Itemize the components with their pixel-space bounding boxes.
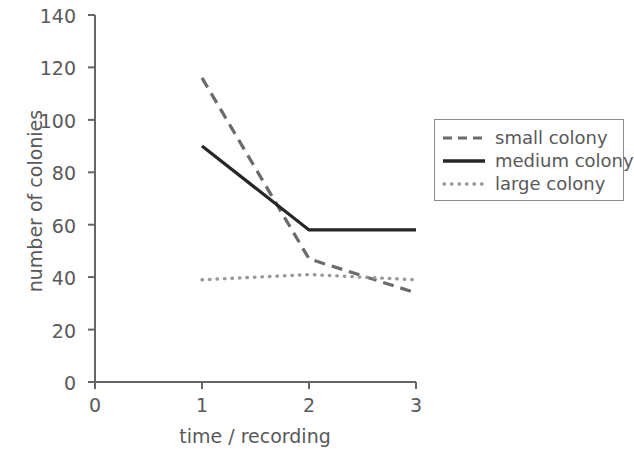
- legend-item-medium-colony: medium colony: [441, 149, 623, 172]
- legend-sample-dotted-icon: [441, 177, 487, 191]
- legend-sample-dashed-icon: [441, 131, 487, 145]
- series-line-small-colony: [202, 78, 416, 293]
- legend-sample-solid-icon: [441, 154, 487, 168]
- x-tick-label-0: 0: [75, 394, 115, 416]
- legend-item-large-colony: large colony: [441, 172, 623, 195]
- y-tick-label-140: 140: [16, 5, 76, 27]
- y-tick-label-0: 0: [16, 372, 76, 394]
- y-axis-title: number of colonies: [24, 91, 46, 311]
- legend-label-small-colony: small colony: [495, 129, 608, 147]
- x-tick-label-2: 2: [289, 394, 329, 416]
- legend-item-small-colony: small colony: [441, 126, 623, 149]
- y-tick-label-120: 120: [16, 57, 76, 79]
- x-tick-label-3: 3: [396, 394, 436, 416]
- x-axis-title: time / recording: [155, 425, 355, 447]
- y-tick-label-20: 20: [16, 320, 76, 342]
- series-line-medium-colony: [202, 146, 416, 230]
- series-line-large-colony: [202, 275, 416, 280]
- x-axis-ticks: [95, 382, 416, 389]
- legend-label-medium-colony: medium colony: [495, 152, 634, 170]
- x-tick-label-1: 1: [182, 394, 222, 416]
- y-axis-ticks: [88, 15, 95, 382]
- legend-label-large-colony: large colony: [495, 175, 605, 193]
- legend: small colony medium colony large colony: [434, 119, 624, 201]
